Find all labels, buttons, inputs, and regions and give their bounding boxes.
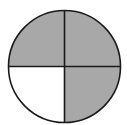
fraction-diagram <box>0 0 127 125</box>
fraction-circle <box>0 0 127 125</box>
